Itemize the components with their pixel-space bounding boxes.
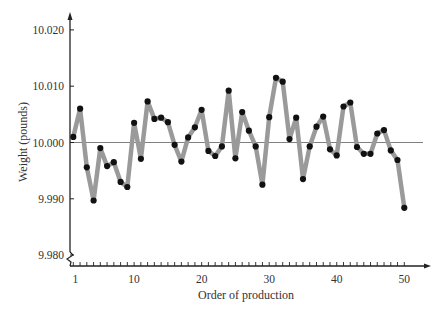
y-axis-arrow-icon xyxy=(68,12,73,20)
data-point xyxy=(91,197,97,203)
data-point xyxy=(320,114,326,120)
data-point xyxy=(401,205,407,211)
data-point xyxy=(111,159,117,165)
data-point xyxy=(212,153,218,159)
x-axis-label: Order of production xyxy=(198,288,294,302)
x-tick-label: 10 xyxy=(128,273,140,285)
data-point xyxy=(266,114,272,120)
x-axis-arrow-icon xyxy=(424,264,431,269)
data-point xyxy=(354,144,360,150)
data-point xyxy=(124,184,130,190)
data-point xyxy=(361,151,367,157)
data-point xyxy=(381,127,387,133)
data-point xyxy=(165,119,171,125)
data-point xyxy=(151,116,157,122)
x-tick-label: 40 xyxy=(331,273,343,285)
data-point xyxy=(313,124,319,130)
data-point xyxy=(131,120,137,126)
data-point xyxy=(70,134,76,140)
data-point xyxy=(192,124,198,130)
data-point xyxy=(327,146,333,152)
data-point xyxy=(185,134,191,140)
data-point xyxy=(246,128,252,134)
data-point xyxy=(300,176,306,182)
y-axis-ticks: 9.9809.99010.00010.01010.020 xyxy=(32,24,74,261)
data-point xyxy=(118,179,124,185)
data-point xyxy=(226,88,232,94)
data-point xyxy=(374,130,380,136)
data-point xyxy=(172,142,178,148)
data-point xyxy=(394,157,400,163)
x-tick-label: 1 xyxy=(72,273,78,285)
data-point xyxy=(280,79,286,85)
data-point xyxy=(293,115,299,121)
data-point xyxy=(178,159,184,165)
data-point xyxy=(307,143,313,149)
data-point xyxy=(286,136,292,142)
data-point xyxy=(205,148,211,154)
y-tick-label: 9.990 xyxy=(38,193,64,205)
x-tick-label: 50 xyxy=(399,273,411,285)
data-point xyxy=(334,152,340,158)
data-point xyxy=(239,109,245,115)
data-point xyxy=(199,107,205,113)
y-tick-label: 10.010 xyxy=(32,80,64,92)
control-chart: 9.9809.99010.00010.01010.020 11020304050… xyxy=(0,0,446,315)
data-point xyxy=(347,99,353,105)
data-point xyxy=(253,143,259,149)
data-point xyxy=(77,106,83,112)
data-point xyxy=(104,163,110,169)
data-point xyxy=(84,164,90,170)
axis-break-icon xyxy=(67,252,73,266)
data-point xyxy=(259,182,265,188)
y-tick-label: 9.980 xyxy=(38,249,64,261)
x-tick-label: 20 xyxy=(196,273,208,285)
data-point xyxy=(340,103,346,109)
y-axis-label: Weight (pounds) xyxy=(16,102,30,182)
data-point xyxy=(273,75,279,81)
data-point xyxy=(145,98,151,104)
data-point xyxy=(388,147,394,153)
chart-canvas: 9.9809.99010.00010.01010.020 11020304050… xyxy=(0,0,446,315)
x-tick-label: 30 xyxy=(263,273,275,285)
data-point xyxy=(232,155,238,161)
data-point xyxy=(138,156,144,162)
y-tick-label: 10.020 xyxy=(32,24,64,36)
data-point xyxy=(97,145,103,151)
data-point xyxy=(158,115,164,121)
data-point xyxy=(219,143,225,149)
y-tick-label: 10.000 xyxy=(32,137,64,149)
data-point xyxy=(367,151,373,157)
